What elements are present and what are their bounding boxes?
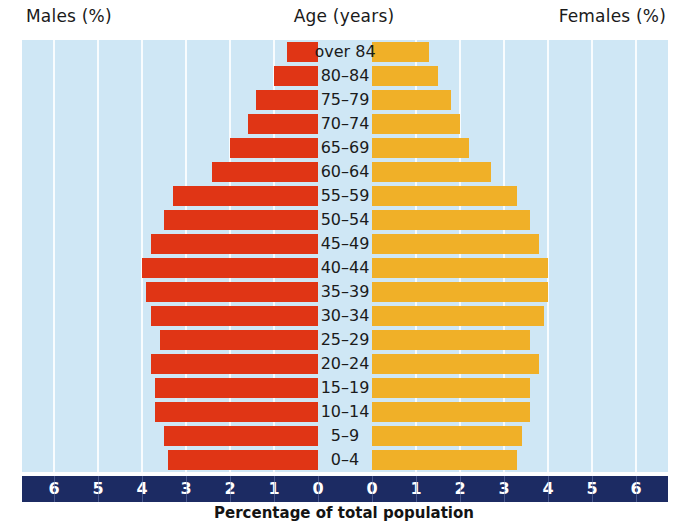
axis-tickmark [54, 476, 55, 502]
pyramid-row: 35–39 [22, 280, 668, 304]
female-bar [372, 210, 530, 230]
axis-tickmark [142, 476, 143, 502]
axis-tickmark [416, 476, 417, 502]
axis-tickmark [186, 476, 187, 502]
pyramid-row: 10–14 [22, 400, 668, 424]
age-group-label: 55–59 [22, 184, 668, 208]
x-axis-title: Percentage of total population [0, 504, 688, 522]
male-bar [151, 234, 318, 254]
age-group-label: 30–34 [22, 304, 668, 328]
age-group-label: 25–29 [22, 328, 668, 352]
axis-tickmark [636, 476, 637, 502]
pyramid-row: 50–54 [22, 208, 668, 232]
pyramid-row: 60–64 [22, 160, 668, 184]
age-group-label: 35–39 [22, 280, 668, 304]
pyramid-row: 30–34 [22, 304, 668, 328]
axis-tickmark [318, 476, 319, 502]
pyramid-row: over 84 [22, 40, 668, 64]
male-bar [164, 426, 318, 446]
axis-tickmark [98, 476, 99, 502]
female-bar [372, 402, 530, 422]
pyramid-row: 80–84 [22, 64, 668, 88]
age-group-label: 80–84 [22, 64, 668, 88]
age-group-label: 5–9 [22, 424, 668, 448]
pyramid-row: 70–74 [22, 112, 668, 136]
female-bar [372, 378, 530, 398]
pyramid-row: 40–44 [22, 256, 668, 280]
female-bar [372, 330, 530, 350]
plot-area: over 8480–8475–7970–7465–6960–6455–5950–… [22, 40, 668, 472]
pyramid-row: 15–19 [22, 376, 668, 400]
female-bar [372, 90, 451, 110]
axis-tickmark [504, 476, 505, 502]
male-bar [155, 378, 318, 398]
male-bar [173, 186, 318, 206]
male-bar [155, 402, 318, 422]
axis-tickmark [460, 476, 461, 502]
population-pyramid-figure: Males (%) Age (years) Females (%) over 8… [0, 0, 688, 528]
male-bar [164, 210, 318, 230]
age-group-label: 10–14 [22, 400, 668, 424]
age-group-label: 70–74 [22, 112, 668, 136]
pyramid-row: 45–49 [22, 232, 668, 256]
age-group-label: 45–49 [22, 232, 668, 256]
female-bar [372, 282, 548, 302]
axis-tickmark [230, 476, 231, 502]
male-bar [151, 354, 318, 374]
age-group-label: 20–24 [22, 352, 668, 376]
female-bar [372, 450, 517, 470]
pyramid-row: 55–59 [22, 184, 668, 208]
male-bar [142, 258, 318, 278]
bar-rows: over 8480–8475–7970–7465–6960–6455–5950–… [22, 40, 668, 472]
male-bar [287, 42, 318, 62]
age-group-label: 60–64 [22, 160, 668, 184]
female-bar [372, 114, 460, 134]
x-axis-strip: 65432100123456 [22, 476, 668, 502]
axis-tickmark [372, 476, 373, 502]
male-bar [151, 306, 318, 326]
pyramid-row: 20–24 [22, 352, 668, 376]
female-bar [372, 42, 429, 62]
axis-tickmark [592, 476, 593, 502]
pyramid-row: 5–9 [22, 424, 668, 448]
age-group-label: 15–19 [22, 376, 668, 400]
age-group-label: 0–4 [22, 448, 668, 472]
age-group-label: 40–44 [22, 256, 668, 280]
female-bar [372, 186, 517, 206]
male-bar [168, 450, 318, 470]
females-axis-label: Females (%) [559, 6, 666, 26]
pyramid-row: 25–29 [22, 328, 668, 352]
axis-tickmark [274, 476, 275, 502]
age-group-label: 50–54 [22, 208, 668, 232]
pyramid-row: 75–79 [22, 88, 668, 112]
female-bar [372, 138, 469, 158]
pyramid-row: 0–4 [22, 448, 668, 472]
pyramid-row: 65–69 [22, 136, 668, 160]
male-bar [160, 330, 318, 350]
female-bar [372, 66, 438, 86]
age-group-label: over 84 [22, 40, 668, 64]
axis-tickmark [548, 476, 549, 502]
male-bar [274, 66, 318, 86]
age-group-label: 65–69 [22, 136, 668, 160]
female-bar [372, 162, 491, 182]
chart-header: Males (%) Age (years) Females (%) [0, 6, 688, 40]
male-bar [146, 282, 318, 302]
female-bar [372, 354, 539, 374]
male-bar [230, 138, 318, 158]
male-bar [248, 114, 318, 134]
female-bar [372, 258, 548, 278]
female-bar [372, 306, 544, 326]
female-bar [372, 234, 539, 254]
age-group-label: 75–79 [22, 88, 668, 112]
male-bar [256, 90, 318, 110]
female-bar [372, 426, 522, 446]
male-bar [212, 162, 318, 182]
